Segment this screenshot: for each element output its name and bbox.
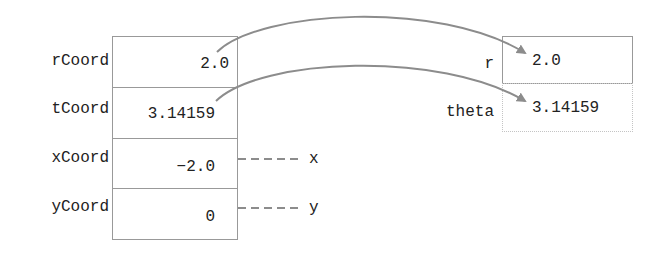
arrow-tCoord-to-theta <box>216 66 525 101</box>
arrow-rCoord-to-r <box>217 17 525 53</box>
connector-layer <box>0 0 654 256</box>
